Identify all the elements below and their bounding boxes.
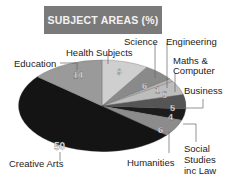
value-education: 14 — [73, 70, 83, 80]
label-science: Science — [124, 36, 158, 47]
value-engineering: 1 — [155, 85, 160, 95]
label-engineering: Engineering — [166, 36, 217, 47]
value-creative-arts: 50 — [54, 141, 66, 152]
label-maths-line2: Computer — [173, 65, 215, 76]
value-health: 9 — [117, 67, 122, 77]
label-business: Business — [184, 85, 223, 96]
value-humanities: 6 — [158, 125, 163, 135]
label-humanities: Humanities — [127, 157, 175, 168]
value-social: 4 — [168, 112, 173, 122]
pie-slices — [19, 60, 186, 152]
label-education: Education — [14, 58, 56, 69]
label-creative-arts: Creative Arts — [9, 158, 64, 169]
value-maths: 5 — [162, 90, 167, 100]
pie-chart: Education Health Subjects Science Engine… — [0, 0, 239, 186]
label-social-line2: Studies — [184, 154, 216, 165]
label-social-line3: inc Law — [184, 165, 216, 176]
value-science: 6 — [142, 81, 147, 91]
label-health: Health Subjects — [66, 47, 133, 58]
label-social-line1: Social — [184, 143, 210, 154]
leader-business — [184, 99, 203, 108]
leader-social — [183, 124, 196, 142]
